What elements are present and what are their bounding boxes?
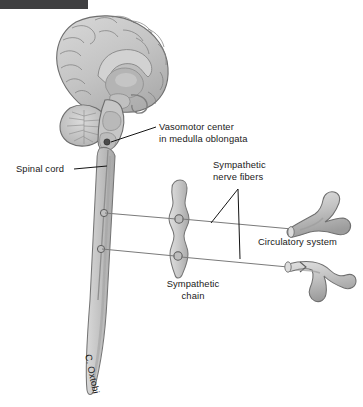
label-vasomotor-line1: Vasomotor center (159, 121, 234, 132)
anatomy-diagram: C. Oxtobi Vasomotor center in medulla ob… (0, 0, 363, 407)
pons (103, 111, 121, 130)
chain-ganglion-lower (174, 252, 182, 260)
label-spinal-cord: Spinal cord (16, 163, 64, 174)
brain-structure (57, 16, 168, 151)
ventricle-highlight (115, 73, 137, 87)
leader-nerve-fibers-upper (211, 189, 238, 223)
nerve-fiber-lower-distal (181, 257, 288, 267)
vessel-lower-cut-end (285, 262, 291, 272)
label-vasomotor-line2: in medulla oblongata (159, 133, 248, 144)
nerve-fiber-upper-proximal (105, 213, 176, 219)
label-nerve-fibers-line1: Sympathetic (213, 159, 266, 170)
label-nerve-fibers-line2: nerve fibers (213, 171, 263, 182)
label-chain-line2: chain (182, 290, 205, 301)
vasomotor-center-dot (104, 139, 110, 145)
vessel-lower (286, 262, 356, 302)
nerve-fiber-lower-proximal (102, 249, 175, 256)
nerve-fiber-upper-distal (182, 219, 292, 229)
vessel-upper (287, 192, 351, 237)
chain-ganglion-upper (175, 215, 183, 223)
label-circulatory-system: Circulatory system (258, 236, 337, 247)
sympathetic-chain (169, 180, 189, 278)
spinal-cord-structure: C. Oxtobi (83, 147, 115, 394)
label-chain-line1: Sympathetic (167, 278, 220, 289)
sympathetic-chain-structure (169, 180, 189, 278)
